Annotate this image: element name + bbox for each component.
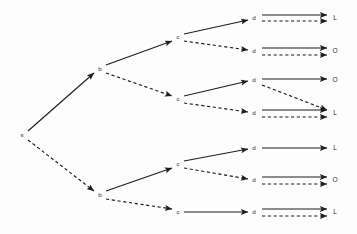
leaf-leaf1: L	[333, 14, 337, 21]
leaf-labels-layer: LOOLLOL	[332, 14, 337, 215]
edge-s-to-b1-solid	[28, 73, 94, 131]
node-d3: d	[252, 76, 256, 83]
edge-c3-to-d5-solid	[184, 149, 248, 161]
node-d4: d	[252, 109, 256, 116]
node-s: s	[20, 131, 23, 138]
edge-b2-to-c3-solid	[106, 168, 172, 191]
node-d5: d	[252, 144, 256, 151]
tree-diagram-svg: sbbccccddddddd LOOLLOL	[0, 0, 357, 234]
node-b1: b	[98, 65, 102, 72]
nodes-layer: sbbccccddddddd	[20, 14, 256, 215]
edge-c2-to-d3-solid	[184, 81, 248, 96]
leaf-leaf4: L	[333, 109, 337, 116]
node-d1: d	[252, 14, 256, 21]
edge-d3-to-leaf4-dashed	[262, 85, 327, 110]
leaf-leaf6: O	[332, 176, 337, 183]
node-b2: b	[98, 191, 102, 198]
tree-diagram-canvas: sbbccccddddddd LOOLLOL	[0, 0, 357, 234]
edge-c1-to-d1-solid	[184, 20, 248, 34]
edge-b2-to-c4-dashed	[106, 199, 172, 209]
edges-layer	[28, 15, 327, 216]
node-c2: c	[176, 95, 179, 102]
edge-c1-to-d2-dashed	[184, 41, 248, 50]
edge-c2-to-d4-dashed	[184, 103, 248, 112]
node-d2: d	[252, 47, 256, 54]
leaf-leaf5: L	[333, 144, 337, 151]
node-c3: c	[176, 160, 179, 167]
edge-b1-to-c2-dashed	[106, 73, 172, 96]
node-c4: c	[176, 208, 179, 215]
node-d6: d	[252, 176, 256, 183]
edge-s-to-b2-dashed	[28, 140, 94, 191]
edge-c3-to-d6-dashed	[184, 168, 248, 179]
node-d7: d	[252, 208, 256, 215]
leaf-leaf3: O	[332, 76, 337, 83]
node-c1: c	[176, 33, 179, 40]
edge-b1-to-c1-solid	[106, 41, 172, 65]
leaf-leaf2: O	[332, 47, 337, 54]
leaf-leaf7: L	[333, 208, 337, 215]
